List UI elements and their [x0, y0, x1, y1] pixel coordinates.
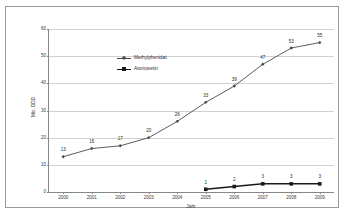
data-point-label: 33: [203, 94, 208, 99]
x-tick-mark: [63, 192, 64, 194]
x-tick-label: 2004: [172, 196, 182, 201]
legend-marker-square-icon: [117, 66, 131, 72]
data-point-marker: [62, 155, 65, 158]
y-tick-label: 10: [41, 163, 46, 168]
data-point-marker: [318, 41, 321, 44]
x-tick-label: 2008: [286, 196, 296, 201]
x-tick-mark: [206, 192, 207, 194]
data-point-marker: [261, 182, 265, 186]
data-point-label: 3: [290, 176, 293, 181]
y-tick-label: 20: [41, 135, 46, 140]
legend-marker-diamond-icon: [117, 55, 131, 61]
x-tick-label: 2009: [315, 196, 325, 201]
y-tick-mark: [47, 192, 49, 193]
x-tick-mark: [320, 192, 321, 194]
y-axis-title: Mio. DDD: [32, 97, 37, 117]
chart-figure: Mio. DDD 0102030405060 20002001200220032…: [0, 0, 347, 224]
data-point-label: 47: [260, 56, 265, 61]
chart-frame: Mio. DDD 0102030405060 20002001200220032…: [5, 6, 339, 208]
data-point-label: 2: [233, 178, 236, 183]
x-tick-label: 2007: [258, 196, 268, 201]
y-tick-label: 0: [43, 190, 46, 195]
x-tick-label: 2006: [229, 196, 239, 201]
y-tick-label: 60: [41, 27, 46, 32]
x-tick-label: 2003: [144, 196, 154, 201]
data-point-marker: [204, 187, 208, 191]
data-point-label: 20: [146, 130, 151, 135]
y-tick-label: 40: [41, 81, 46, 86]
data-point-marker: [90, 147, 93, 150]
legend-label: Methylphenidat: [134, 56, 167, 61]
x-tick-label: 2000: [58, 196, 68, 201]
legend-item-atomoxetin: Atomoxetin: [117, 66, 167, 72]
x-tick-mark: [234, 192, 235, 194]
x-tick-mark: [177, 192, 178, 194]
x-tick-label: 2001: [87, 196, 97, 201]
chart-legend: Methylphenidat Atomoxetin: [117, 55, 167, 72]
data-point-marker: [119, 144, 122, 147]
x-tick-mark: [291, 192, 292, 194]
x-tick-label: 2005: [201, 196, 211, 201]
data-point-marker: [232, 185, 236, 189]
x-axis-title: Jahr: [48, 205, 334, 210]
y-tick-label: 50: [41, 54, 46, 59]
data-point-label: 55: [317, 34, 322, 39]
plot-area: 0102030405060 20002001200220032004200520…: [48, 29, 334, 193]
data-point-label: 16: [89, 140, 94, 145]
data-point-label: 26: [175, 113, 180, 118]
x-tick-label: 2002: [115, 196, 125, 201]
y-tick-label: 30: [41, 108, 46, 113]
data-point-label: 1: [204, 181, 207, 186]
data-point-label: 39: [232, 78, 237, 83]
data-point-label: 17: [118, 138, 123, 143]
data-point-marker: [318, 182, 322, 186]
data-point-label: 3: [318, 176, 321, 181]
series-line-methylphenidat: [63, 43, 320, 157]
x-tick-mark: [149, 192, 150, 194]
legend-label: Atomoxetin: [134, 67, 158, 72]
legend-item-methylphenidat: Methylphenidat: [117, 55, 167, 61]
data-point-label: 3: [261, 176, 264, 181]
data-point-label: 13: [61, 149, 66, 154]
x-tick-mark: [92, 192, 93, 194]
x-tick-mark: [263, 192, 264, 194]
data-point-marker: [289, 182, 293, 186]
series-lines: [49, 29, 334, 192]
data-point-label: 53: [289, 40, 294, 45]
x-tick-mark: [120, 192, 121, 194]
